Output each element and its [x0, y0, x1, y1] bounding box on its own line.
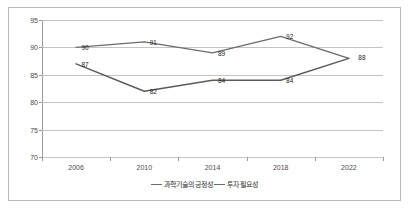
- data-point-label: 84: [218, 78, 225, 85]
- data-point-label: 87: [81, 62, 88, 69]
- legend-label-positivity: 과학기술의 긍정성: [164, 181, 214, 188]
- y-tick-label: 80: [30, 99, 38, 106]
- x-tick-mark: [110, 157, 111, 161]
- x-tick-label: 2010: [137, 164, 153, 171]
- x-tick-label: 2014: [205, 164, 221, 171]
- x-tick-label: 2022: [341, 164, 357, 171]
- y-tick-label: 75: [30, 126, 38, 133]
- x-tick-label: 2006: [68, 164, 84, 171]
- chart-legend: 과학기술의 긍정성 투자 필요성: [9, 181, 400, 188]
- line-chart-figure: 707580859095 20062010201420182022 909189…: [8, 7, 401, 201]
- data-point-label: 91: [150, 40, 157, 47]
- series-line: [76, 36, 349, 58]
- data-point-label: 89: [218, 51, 225, 58]
- y-tick-label: 85: [30, 71, 38, 78]
- y-tick-label: 95: [30, 17, 38, 24]
- x-tick-mark: [42, 157, 43, 161]
- x-tick-mark: [315, 157, 316, 161]
- series-lines: [42, 20, 383, 157]
- legend-entry-positivity: 과학기술의 긍정성: [151, 181, 214, 188]
- x-tick-mark: [178, 157, 179, 161]
- x-tick-mark: [247, 157, 248, 161]
- x-tick-label: 2018: [273, 164, 289, 171]
- data-point-label: 90: [81, 45, 88, 52]
- y-tick-label: 70: [30, 154, 38, 161]
- x-tick-mark: [383, 157, 384, 161]
- data-point-label: 92: [286, 34, 293, 41]
- legend-label-investment-need: 투자 필요성: [227, 181, 259, 188]
- plot-area: 707580859095 20062010201420182022 909189…: [42, 20, 383, 157]
- legend-entry-investment-need: 투자 필요성: [214, 181, 259, 188]
- series-line: [76, 58, 349, 91]
- legend-line-icon: [151, 184, 162, 186]
- gridline: [42, 157, 383, 158]
- data-point-label: 82: [150, 89, 157, 96]
- legend-line-icon: [214, 184, 225, 186]
- data-point-label: 88: [358, 55, 365, 62]
- y-tick-label: 90: [30, 44, 38, 51]
- data-point-label: 84: [286, 78, 293, 85]
